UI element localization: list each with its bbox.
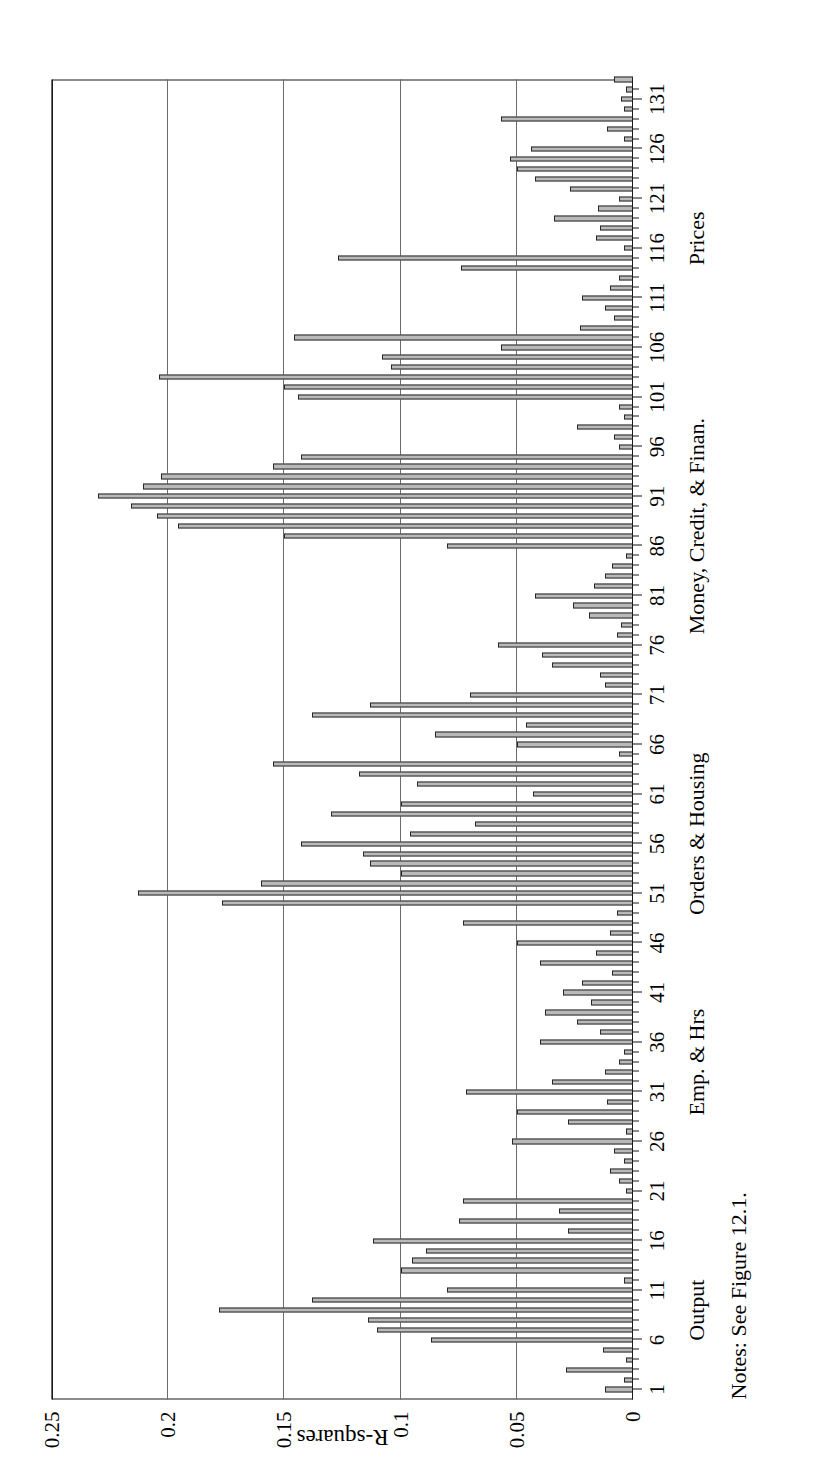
bar bbox=[570, 186, 633, 191]
bar bbox=[612, 563, 633, 568]
minor-tick bbox=[633, 1160, 639, 1161]
bar bbox=[566, 1367, 633, 1372]
minor-tick bbox=[633, 1309, 639, 1310]
minor-tick bbox=[633, 1319, 639, 1320]
bar bbox=[610, 285, 633, 290]
bar bbox=[577, 424, 633, 429]
bar bbox=[157, 513, 633, 518]
bar bbox=[435, 731, 633, 736]
x-tick-label-81: 81 bbox=[645, 585, 669, 606]
minor-tick bbox=[633, 277, 639, 278]
bar bbox=[552, 1079, 633, 1084]
minor-tick bbox=[633, 306, 639, 307]
major-tick bbox=[633, 1041, 642, 1042]
minor-tick bbox=[633, 654, 639, 655]
bar bbox=[526, 722, 633, 727]
x-tick-label-21: 21 bbox=[645, 1180, 669, 1201]
bar bbox=[382, 354, 633, 359]
bar bbox=[401, 801, 633, 806]
minor-tick bbox=[633, 286, 639, 287]
major-tick bbox=[633, 892, 642, 893]
bar bbox=[377, 1327, 633, 1332]
major-tick bbox=[633, 544, 642, 545]
major-tick bbox=[633, 296, 642, 297]
minor-tick bbox=[633, 1051, 639, 1052]
minor-tick bbox=[633, 564, 639, 565]
plot-area bbox=[52, 79, 633, 1399]
minor-tick bbox=[633, 703, 639, 704]
bar bbox=[363, 851, 633, 856]
minor-tick bbox=[633, 604, 639, 605]
minor-tick bbox=[633, 227, 639, 228]
minor-tick bbox=[633, 535, 639, 536]
bar bbox=[161, 473, 633, 478]
major-tick bbox=[633, 991, 642, 992]
minor-tick bbox=[633, 415, 639, 416]
bar bbox=[614, 315, 633, 320]
bar bbox=[612, 970, 633, 975]
minor-tick bbox=[633, 505, 639, 506]
bar bbox=[545, 1009, 633, 1014]
major-tick bbox=[633, 594, 642, 595]
minor-tick bbox=[633, 485, 639, 486]
minor-tick bbox=[633, 961, 639, 962]
bar bbox=[312, 712, 633, 717]
bar bbox=[512, 1138, 633, 1143]
bar bbox=[598, 205, 633, 210]
minor-tick bbox=[633, 1368, 639, 1369]
minor-tick bbox=[633, 1279, 639, 1280]
major-tick bbox=[633, 644, 642, 645]
bar bbox=[517, 741, 633, 746]
major-tick bbox=[633, 98, 642, 99]
x-tick-label-106: 106 bbox=[645, 331, 669, 363]
major-tick bbox=[633, 1190, 642, 1191]
minor-tick bbox=[633, 1130, 639, 1131]
bar bbox=[431, 1337, 633, 1342]
minor-tick bbox=[633, 922, 639, 923]
minor-tick bbox=[633, 1378, 639, 1379]
bar bbox=[463, 1198, 633, 1203]
bar-chart-figure: R-squares 00.050.10.150.20.25 1611162126… bbox=[0, 0, 814, 1477]
group-label: Emp. & Hrs bbox=[684, 1008, 710, 1115]
minor-tick bbox=[633, 624, 639, 625]
x-tick-label-121: 121 bbox=[645, 182, 669, 214]
major-tick bbox=[633, 445, 642, 446]
bar bbox=[600, 225, 633, 230]
minor-tick bbox=[633, 862, 639, 863]
bar bbox=[517, 166, 633, 171]
bar bbox=[605, 682, 633, 687]
minor-tick bbox=[633, 326, 639, 327]
bar bbox=[143, 483, 633, 488]
minor-tick bbox=[633, 108, 639, 109]
minor-tick bbox=[633, 88, 639, 89]
bar bbox=[540, 1039, 633, 1044]
major-tick bbox=[633, 197, 642, 198]
bar bbox=[614, 1148, 633, 1153]
minor-tick bbox=[633, 435, 639, 436]
bar bbox=[294, 334, 633, 339]
minor-tick bbox=[633, 803, 639, 804]
bar bbox=[466, 1089, 633, 1094]
bar bbox=[542, 652, 633, 657]
minor-tick bbox=[633, 783, 639, 784]
bar bbox=[614, 76, 633, 81]
bar bbox=[605, 1069, 633, 1074]
major-tick bbox=[633, 743, 642, 744]
x-tick-label-41: 41 bbox=[645, 982, 669, 1003]
minor-tick bbox=[633, 1070, 639, 1071]
minor-tick bbox=[633, 425, 639, 426]
group-label: Money, Credit, & Finan. bbox=[684, 418, 710, 634]
bar bbox=[535, 593, 633, 598]
minor-tick bbox=[633, 207, 639, 208]
major-tick bbox=[633, 842, 642, 843]
bar bbox=[517, 940, 633, 945]
minor-tick bbox=[633, 1110, 639, 1111]
minor-tick bbox=[633, 902, 639, 903]
minor-tick bbox=[633, 217, 639, 218]
bar bbox=[401, 1267, 633, 1272]
bar bbox=[535, 176, 633, 181]
minor-tick bbox=[633, 971, 639, 972]
x-tick-label-96: 96 bbox=[645, 436, 669, 457]
bar bbox=[412, 1257, 633, 1262]
x-tick-label-46: 46 bbox=[645, 932, 669, 953]
